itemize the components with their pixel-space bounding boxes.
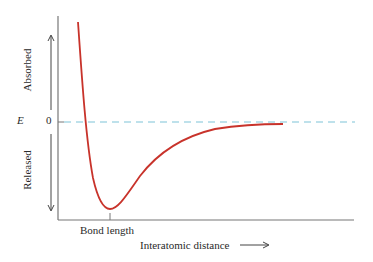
energy-label: E bbox=[17, 114, 24, 126]
released-label: Released bbox=[21, 140, 33, 200]
zero-label: 0 bbox=[46, 114, 52, 126]
bond-length-label: Bond length bbox=[80, 224, 134, 236]
potential-energy-diagram bbox=[0, 0, 373, 262]
absorbed-label: Absorbed bbox=[21, 40, 33, 100]
potential-energy-curve bbox=[78, 22, 283, 209]
x-axis-label: Interatomic distance bbox=[140, 239, 230, 251]
